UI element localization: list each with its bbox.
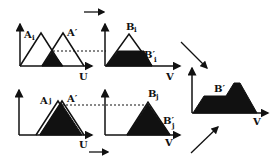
flow-arrow-down-right bbox=[181, 42, 207, 68]
aggregate-output-plot: B′ V bbox=[192, 68, 268, 127]
rule1-set-label: A bbox=[23, 29, 32, 40]
rule2-input-label: A′ bbox=[66, 93, 78, 104]
rule1-u-axis-label: U bbox=[79, 71, 88, 82]
rule2-u-axis-label: U bbox=[79, 139, 88, 150]
flow-arrow-up-right bbox=[191, 127, 218, 153]
rule1-set-B-sub: i bbox=[134, 25, 137, 34]
rule1-consequent-plot: B i B′ i V bbox=[105, 21, 180, 82]
rule2-output-sub: j bbox=[171, 121, 175, 130]
rule2-set-B-sub: j bbox=[155, 92, 159, 101]
rule1-input-label: A′ bbox=[66, 27, 78, 38]
rule1-v-axis-label: V bbox=[165, 71, 174, 82]
aggregate-output-label: B′ bbox=[214, 83, 225, 94]
rule1-antecedent-plot: A i A′ U bbox=[20, 24, 106, 82]
rule2-antecedent-plot: A j A′ U bbox=[19, 90, 150, 150]
aggregate-v-axis-label: V bbox=[252, 116, 261, 127]
rule2-v-axis-label: V bbox=[164, 137, 173, 148]
rule2-set-sub: j bbox=[48, 96, 52, 105]
rule1-set-sub: i bbox=[32, 33, 35, 42]
rule1-output-sub: i bbox=[154, 55, 157, 64]
fuzzy-inference-diagram: A i A′ U B i B′ i V A j A′ U B bbox=[0, 0, 278, 167]
rule2-consequent-plot: B j B′ j V bbox=[105, 88, 180, 148]
rule2-set-label: A bbox=[39, 95, 48, 106]
